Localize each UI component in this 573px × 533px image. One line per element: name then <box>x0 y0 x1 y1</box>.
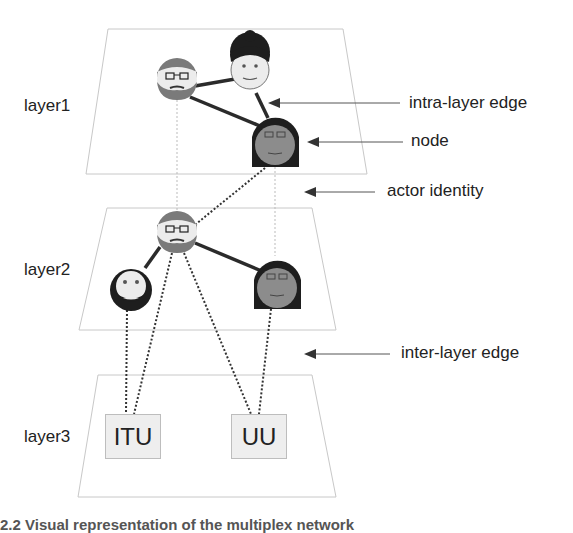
org-node-itu: ITU <box>105 414 161 459</box>
org-node-itu-label: ITU <box>114 423 153 451</box>
actor-identity-label: actor identity <box>387 181 483 201</box>
node-man-beard-layer2 <box>110 269 152 311</box>
org-node-uu: UU <box>231 414 287 459</box>
node-woman-long-hair-layer1 <box>252 118 299 167</box>
inter-layer-edge-man-uu <box>184 253 251 414</box>
layer2-plane <box>79 208 336 330</box>
node-label: node <box>411 131 449 151</box>
arrow-node <box>307 137 403 147</box>
intra-layer-edge <box>195 79 235 86</box>
arrow-actor-identity <box>304 187 375 197</box>
node-woman-bun-layer1 <box>230 30 270 89</box>
node-woman-long-hair-layer2 <box>254 261 301 309</box>
cross-layer-edge <box>196 168 265 224</box>
intra-layer-edge-label: intra-layer edge <box>409 93 527 113</box>
node-man-glasses-layer1 <box>157 58 197 100</box>
org-node-uu-label: UU <box>242 423 277 451</box>
layer1-label: layer1 <box>24 96 70 116</box>
arrow-inter-layer-edge <box>304 349 390 359</box>
layer2-label: layer2 <box>24 260 70 280</box>
layer1-plane <box>86 29 367 174</box>
inter-layer-edge-label: inter-layer edge <box>401 343 519 363</box>
intra-layer-edge <box>256 93 268 118</box>
intra-layer-edge <box>195 243 264 272</box>
intra-layer-edge <box>190 97 260 126</box>
figure-caption: 2.2 Visual representation of the multipl… <box>0 516 354 533</box>
node-man-glasses-layer2 <box>157 211 197 253</box>
inter-layer-edge-woman-uu <box>259 309 271 414</box>
inter-layer-edge-beard-itu <box>126 310 127 414</box>
layer3-label: layer3 <box>24 427 70 447</box>
arrow-intra-layer-edge <box>268 98 400 108</box>
intra-layer-edge <box>145 247 160 268</box>
